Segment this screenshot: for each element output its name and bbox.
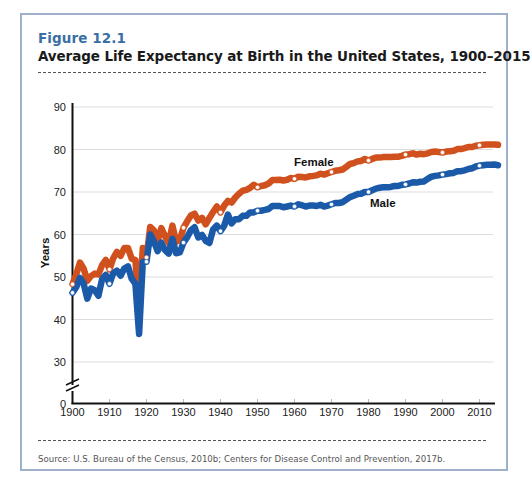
y-axis-label: Years	[39, 238, 51, 269]
x-tick-label: 1930	[171, 406, 195, 418]
y-tick-label: 30	[54, 356, 66, 368]
x-tick-label: 1960	[282, 406, 306, 418]
x-tick-label: 2010	[467, 406, 491, 418]
y-tick-label: 90	[54, 101, 66, 113]
x-tick-label: 1950	[245, 406, 269, 418]
x-tick-label: 1900	[60, 406, 84, 418]
x-tick-label: 1910	[97, 406, 121, 418]
data-point-marker	[403, 152, 407, 156]
y-tick-label: 80	[54, 144, 66, 156]
data-point-marker	[144, 260, 148, 264]
data-point-marker	[477, 163, 481, 167]
male-series-label: Male	[370, 197, 396, 209]
data-point-marker	[107, 267, 111, 271]
x-tick-label: 1990	[393, 406, 417, 418]
data-point-marker	[292, 177, 296, 181]
data-point-marker	[218, 229, 222, 233]
x-tick-label: 1970	[319, 406, 343, 418]
data-point-marker	[477, 143, 481, 147]
series-lines	[70, 143, 498, 334]
data-point-marker	[218, 210, 222, 214]
male-series-line	[73, 164, 499, 334]
y-axis-ticks: 030405060708090	[54, 101, 66, 410]
y-tick-label: 50	[54, 271, 66, 283]
y-tick-label: 60	[54, 229, 66, 241]
data-point-marker	[329, 170, 333, 174]
y-tick-label: 40	[54, 314, 66, 326]
data-point-marker	[366, 190, 370, 194]
data-point-marker	[144, 255, 148, 259]
data-point-marker	[70, 291, 74, 295]
data-point-marker	[440, 150, 444, 154]
x-tick-label: 1980	[356, 406, 380, 418]
data-point-marker	[107, 282, 111, 286]
data-point-marker	[255, 209, 259, 213]
data-point-marker	[366, 158, 370, 162]
data-point-marker	[181, 226, 185, 230]
x-tick-label: 1940	[208, 406, 232, 418]
data-point-marker	[329, 202, 333, 206]
x-axis-ticks: 1900191019201930194019501960197019801990…	[60, 399, 491, 418]
y-tick-label: 70	[54, 186, 66, 198]
x-tick-label: 2000	[430, 406, 454, 418]
female-series-label: Female	[294, 156, 334, 168]
data-point-marker	[403, 182, 407, 186]
x-tick-label: 1920	[134, 406, 158, 418]
data-point-marker	[181, 240, 185, 244]
data-point-marker	[70, 282, 74, 286]
data-point-marker	[255, 185, 259, 189]
data-point-marker	[440, 172, 444, 176]
data-point-marker	[292, 204, 296, 208]
